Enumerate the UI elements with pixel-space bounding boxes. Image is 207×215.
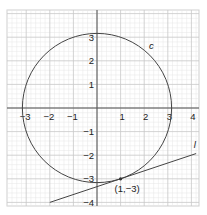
x-tick-label: −2 — [43, 111, 54, 122]
x-tick-label: 1 — [119, 111, 124, 122]
tangent-point-marker — [119, 177, 122, 180]
y-tick-label: 2 — [89, 55, 94, 66]
y-tick-label: −4 — [83, 197, 94, 208]
y-tick-label: −1 — [83, 126, 94, 137]
x-tick-label: 4 — [190, 111, 195, 122]
circle-tangent-graph: −3−2−11234321−1−2−3−4 (1,−3)cl — [0, 0, 207, 215]
y-tick-label: −2 — [83, 150, 94, 161]
x-tick-label: −1 — [67, 111, 78, 122]
y-tick-label: 1 — [89, 79, 94, 90]
x-tick-label: −3 — [20, 111, 31, 122]
circle-label: c — [149, 40, 154, 51]
x-tick-label: 2 — [143, 111, 148, 122]
tangent-point-label: (1,−3) — [115, 183, 140, 194]
